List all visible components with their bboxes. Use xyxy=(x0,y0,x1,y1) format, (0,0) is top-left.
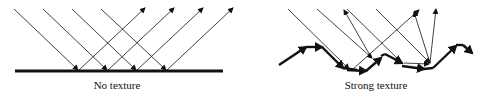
caption-strong-texture: Strong texture xyxy=(345,79,408,91)
no-texture-panel xyxy=(14,8,233,71)
caption-no-texture: No texture xyxy=(94,79,141,91)
strong-texture-panel xyxy=(279,9,472,71)
reflection-diagram xyxy=(0,0,486,97)
scattered-rays xyxy=(288,9,436,69)
incident-rays xyxy=(14,9,166,70)
